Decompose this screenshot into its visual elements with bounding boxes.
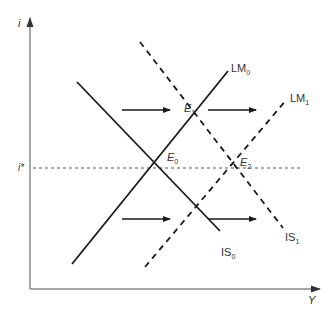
reference-rate-label: i* [18, 162, 25, 173]
svg-text:E0: E0 [167, 151, 178, 165]
x-axis-label: Y [308, 294, 316, 306]
is0-label: IS0 [221, 246, 235, 260]
svg-text:IS0: IS0 [221, 246, 235, 260]
svg-text:LM0: LM0 [231, 62, 250, 76]
e1-label: E1 [184, 102, 195, 116]
is1-curve [140, 42, 283, 228]
svg-text:IS1: IS1 [285, 231, 299, 245]
y-axis-label: i [18, 17, 21, 29]
lm1-curve [145, 99, 287, 267]
is1-label: IS1 [285, 231, 299, 245]
svg-text:LM1: LM1 [290, 92, 309, 106]
is0-curve [77, 82, 220, 231]
lm1-label: LM1 [290, 92, 309, 106]
lm0-label: LM0 [231, 62, 250, 76]
is-lm-diagram: i Y i* LM0 LM1 IS0 IS1 E0 E1 E2 [0, 0, 329, 318]
e2-label: E2 [240, 156, 251, 170]
e0-label: E0 [167, 151, 178, 165]
svg-text:E2: E2 [240, 156, 251, 170]
svg-text:E1: E1 [184, 102, 195, 116]
